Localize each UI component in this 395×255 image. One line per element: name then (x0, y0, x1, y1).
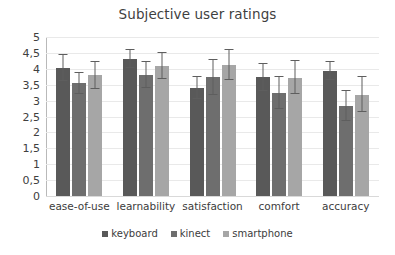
error-bar-cap-bottom (141, 87, 150, 88)
bar-keyboard-comfort[interactable] (256, 37, 270, 196)
bar-rect (56, 68, 70, 196)
legend-swatch-icon (171, 231, 177, 237)
error-bar-cap-top (259, 63, 268, 64)
bar-rect (139, 75, 153, 196)
error-bar-cap-bottom (357, 111, 366, 112)
bar-smartphone-accuracy[interactable] (355, 37, 369, 196)
error-bar (63, 55, 64, 82)
error-bar (196, 77, 197, 99)
error-bar-cap-bottom (341, 120, 350, 121)
bar-kinect-accuracy[interactable] (339, 37, 353, 196)
bar-keyboard-learnability[interactable] (123, 37, 137, 196)
error-bar-cap-top (59, 54, 68, 55)
legend-label: keyboard (111, 228, 157, 239)
bar-kinect-satisfaction[interactable] (206, 37, 220, 196)
error-bar (295, 61, 296, 94)
bar-group (56, 37, 102, 196)
bar-rect (256, 77, 270, 196)
error-bar (95, 62, 96, 89)
error-bar-cap-top (224, 49, 233, 50)
error-bar-cap-bottom (75, 93, 84, 94)
error-bar-cap-bottom (157, 78, 166, 79)
y-axis-tick-label: 3 (33, 94, 40, 107)
error-bar-cap-bottom (208, 94, 217, 95)
plot-area (46, 37, 379, 196)
bar-keyboard-ease-of-use[interactable] (56, 37, 70, 196)
error-bar-cap-top (91, 61, 100, 62)
bar-rect (190, 88, 204, 196)
chart-legend: keyboardkinectsmartphone (0, 228, 395, 239)
bar-rect (288, 78, 302, 196)
bar-rect (123, 59, 137, 196)
bar-group (123, 37, 169, 196)
category-label-learnability: learnability (117, 200, 176, 212)
bar-group (323, 37, 369, 196)
legend-swatch-icon (223, 231, 229, 237)
error-bar-cap-bottom (224, 79, 233, 80)
bar-rect (155, 66, 169, 196)
bar-rect (72, 83, 86, 196)
error-bar-cap-top (341, 90, 350, 91)
category-label-ease-of-use: ease-of-use (49, 200, 110, 212)
bar-rect (222, 65, 236, 196)
y-axis-tick-label: 1,5 (23, 142, 41, 155)
category-label-accuracy: accuracy (322, 200, 369, 212)
y-axis-tick-label: 5 (33, 31, 40, 44)
error-bar (263, 64, 264, 91)
bar-smartphone-learnability[interactable] (155, 37, 169, 196)
bar-group (256, 37, 302, 196)
bar-kinect-ease-of-use[interactable] (72, 37, 86, 196)
legend-item-kinect[interactable]: kinect (171, 228, 210, 239)
bar-groups (46, 37, 379, 196)
error-bar-cap-top (208, 59, 217, 60)
error-bar (145, 62, 146, 89)
legend-label: kinect (180, 228, 210, 239)
error-bar-cap-top (275, 76, 284, 77)
legend-item-keyboard[interactable]: keyboard (102, 228, 157, 239)
y-axis-tick-label: 2,5 (23, 110, 41, 123)
error-bar-cap-top (192, 76, 201, 77)
bar-group (190, 37, 236, 196)
error-bar (129, 50, 130, 68)
error-bar (79, 73, 80, 94)
error-bar-cap-top (75, 72, 84, 73)
chart-container: Subjective user ratings 00,511,522,533,5… (0, 0, 395, 255)
error-bar-cap-bottom (192, 98, 201, 99)
error-bar (329, 62, 330, 79)
error-bar-cap-bottom (125, 67, 134, 68)
bar-smartphone-comfort[interactable] (288, 37, 302, 196)
error-bar-cap-bottom (259, 90, 268, 91)
bar-kinect-learnability[interactable] (139, 37, 153, 196)
error-bar-cap-bottom (291, 93, 300, 94)
bar-keyboard-accuracy[interactable] (323, 37, 337, 196)
legend-swatch-icon (102, 231, 108, 237)
y-axis-tick-label: 4,5 (23, 46, 41, 59)
error-bar (161, 53, 162, 79)
bar-smartphone-ease-of-use[interactable] (88, 37, 102, 196)
y-axis-tick-label: 0 (33, 190, 40, 203)
error-bar-cap-bottom (325, 79, 334, 80)
legend-item-smartphone[interactable]: smartphone (223, 228, 292, 239)
error-bar (345, 91, 346, 122)
gridline (46, 196, 379, 197)
y-axis-tick-labels: 00,511,522,533,544,55 (0, 37, 40, 196)
error-bar-cap-bottom (59, 80, 68, 81)
bar-keyboard-satisfaction[interactable] (190, 37, 204, 196)
bar-kinect-comfort[interactable] (272, 37, 286, 196)
x-axis-category-labels: ease-of-uselearnabilitysatisfactioncomfo… (46, 200, 379, 218)
bar-rect (88, 75, 102, 196)
error-bar (361, 77, 362, 112)
error-bar-cap-top (157, 52, 166, 53)
category-label-comfort: comfort (259, 200, 300, 212)
y-axis-tick-label: 3,5 (23, 78, 41, 91)
error-bar-cap-top (325, 61, 334, 62)
chart-title: Subjective user ratings (0, 6, 395, 22)
error-bar-cap-top (291, 60, 300, 61)
category-label-satisfaction: satisfaction (182, 200, 242, 212)
error-bar-cap-top (357, 76, 366, 77)
bar-smartphone-satisfaction[interactable] (222, 37, 236, 196)
legend-label: smartphone (232, 228, 292, 239)
error-bar (228, 50, 229, 80)
error-bar (212, 60, 213, 95)
error-bar-cap-bottom (91, 88, 100, 89)
